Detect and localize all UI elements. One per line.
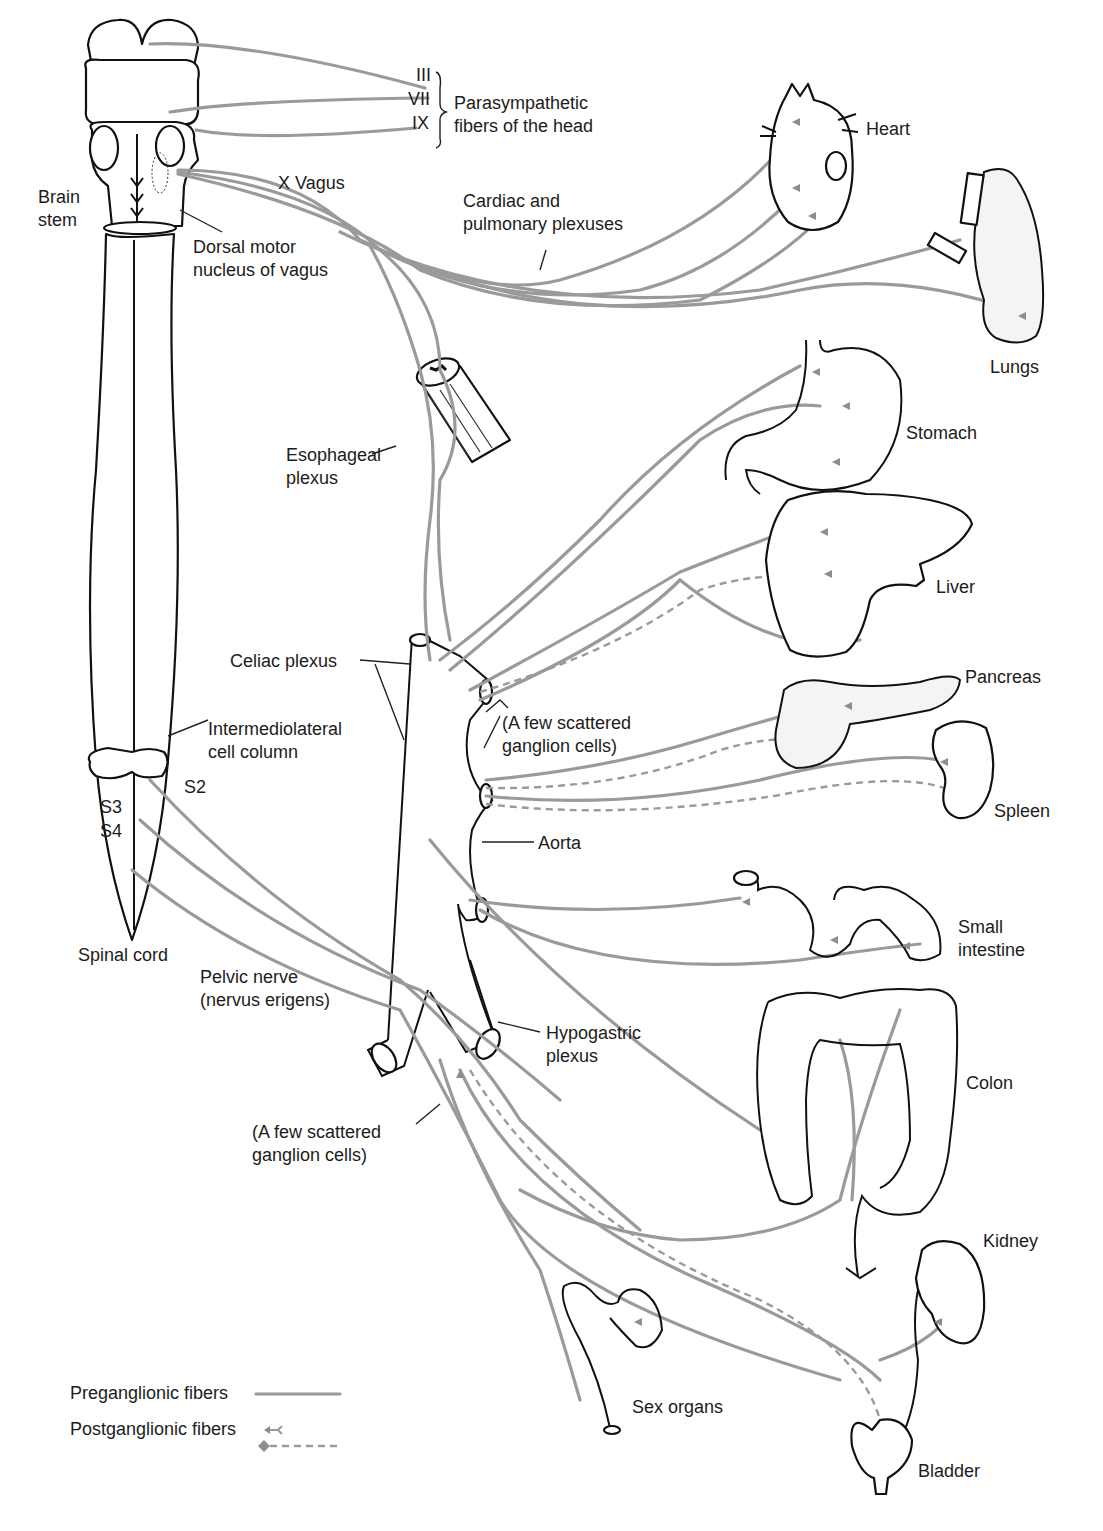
legend-preganglionic-label: Preganglionic fibers bbox=[70, 1382, 228, 1404]
bladder-drawing bbox=[851, 1419, 912, 1494]
aorta-drawing bbox=[367, 634, 505, 1077]
label-spleen: Spleen bbox=[994, 800, 1050, 822]
label-scattered-lower-1: (A few scattered bbox=[252, 1121, 381, 1143]
label-small-intestine-2: intestine bbox=[958, 939, 1025, 961]
heart-drawing bbox=[760, 84, 858, 230]
label-scattered-upper-1: (A few scattered bbox=[502, 712, 631, 734]
label-kidney: Kidney bbox=[983, 1230, 1038, 1252]
label-small-intestine-1: Small bbox=[958, 916, 1003, 938]
label-cn-vii: VII bbox=[408, 88, 430, 110]
label-x-vagus: X Vagus bbox=[278, 172, 345, 194]
label-brain-stem-2: stem bbox=[38, 209, 77, 231]
label-parasympathetic-head-2: fibers of the head bbox=[454, 115, 593, 137]
liver-drawing bbox=[766, 491, 972, 656]
label-dorsal-motor-2: nucleus of vagus bbox=[193, 259, 328, 281]
legend-postganglionic-swatch bbox=[258, 1426, 340, 1452]
label-pelvic-1: Pelvic nerve bbox=[200, 966, 298, 988]
label-dorsal-motor-1: Dorsal motor bbox=[193, 236, 296, 258]
label-spinal-cord: Spinal cord bbox=[78, 944, 168, 966]
label-parasympathetic-head-1: Parasympathetic bbox=[454, 92, 588, 114]
label-cn-ix: IX bbox=[412, 112, 429, 134]
label-esophageal-1: Esophageal bbox=[286, 444, 381, 466]
label-hypogastric-1: Hypogastric bbox=[546, 1022, 641, 1044]
stomach-drawing bbox=[725, 340, 901, 494]
label-sex-organs: Sex organs bbox=[632, 1396, 723, 1418]
label-intermediolateral-2: cell column bbox=[208, 741, 298, 763]
label-s3: S3 bbox=[100, 796, 122, 818]
spleen-drawing bbox=[933, 721, 993, 818]
label-scattered-upper-2: ganglion cells) bbox=[502, 735, 617, 757]
label-scattered-lower-2: ganglion cells) bbox=[252, 1144, 367, 1166]
kidney-drawing bbox=[900, 1241, 984, 1440]
label-liver: Liver bbox=[936, 576, 975, 598]
label-bladder: Bladder bbox=[918, 1460, 980, 1482]
label-pancreas: Pancreas bbox=[965, 666, 1041, 688]
label-pelvic-2: (nervus erigens) bbox=[200, 989, 330, 1011]
label-colon: Colon bbox=[966, 1072, 1013, 1094]
label-heart: Heart bbox=[866, 118, 910, 140]
label-cardiac-2: pulmonary plexuses bbox=[463, 213, 623, 235]
label-s2: S2 bbox=[184, 776, 206, 798]
label-cn-iii: III bbox=[416, 64, 431, 86]
label-intermediolateral-1: Intermediolateral bbox=[208, 718, 342, 740]
label-hypogastric-2: plexus bbox=[546, 1045, 598, 1067]
pancreas-drawing bbox=[775, 676, 960, 768]
label-celiac-plexus: Celiac plexus bbox=[230, 650, 337, 672]
legend-postganglionic-label: Postganglionic fibers bbox=[70, 1418, 236, 1440]
label-aorta: Aorta bbox=[538, 832, 581, 854]
label-lungs: Lungs bbox=[990, 356, 1039, 378]
label-brain-stem-1: Brain bbox=[38, 186, 80, 208]
label-esophageal-2: plexus bbox=[286, 467, 338, 489]
label-cardiac-1: Cardiac and bbox=[463, 190, 560, 212]
label-stomach: Stomach bbox=[906, 422, 977, 444]
brain-stem-drawing bbox=[85, 20, 199, 234]
label-s4: S4 bbox=[100, 820, 122, 842]
